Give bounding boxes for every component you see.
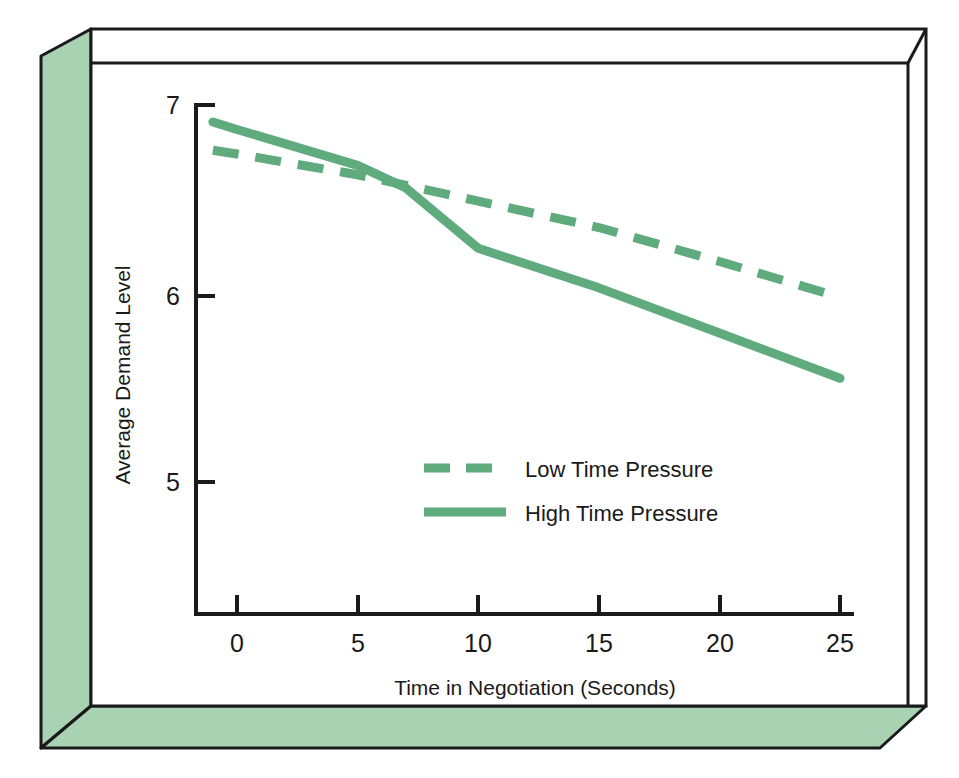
legend-label-low-time-pressure: Low Time Pressure — [525, 457, 713, 482]
box-left-panel — [41, 29, 91, 748]
chart-figure: 7 6 5 0 5 10 15 20 25 Time in Negotiatio… — [0, 0, 959, 778]
x-tick-label-5: 5 — [351, 629, 365, 657]
x-tick-label-15: 15 — [585, 629, 613, 657]
x-tick-label-10: 10 — [464, 629, 492, 657]
x-tick-label-20: 20 — [706, 629, 734, 657]
box-floor-panel — [41, 706, 926, 748]
x-tick-label-0: 0 — [230, 629, 244, 657]
x-axis-title: Time in Negotiation (Seconds) — [394, 676, 676, 699]
x-tick-label-25: 25 — [826, 629, 854, 657]
figure-stage: 7 6 5 0 5 10 15 20 25 Time in Negotiatio… — [0, 0, 959, 778]
y-tick-label-6: 6 — [166, 282, 180, 310]
legend-label-high-time-pressure: High Time Pressure — [525, 501, 718, 526]
y-tick-label-7: 7 — [166, 91, 180, 119]
y-axis-title: Average Demand Level — [111, 265, 134, 484]
y-tick-label-5: 5 — [166, 468, 180, 496]
